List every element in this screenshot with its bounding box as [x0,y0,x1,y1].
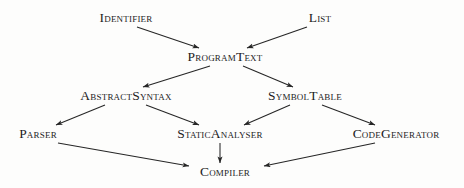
edge-abstractsyntax-to-staticanalyser [146,105,199,125]
edge-symboltable-to-codegenerator [322,105,375,125]
dependency-diagram: IdentifierListProgramTextAbstractSyntaxS… [0,0,464,188]
edge-abstractsyntax-to-parser [56,105,105,125]
node-abstractsyntax[interactable]: AbstractSyntax [80,89,171,103]
node-identifier[interactable]: Identifier [100,11,153,25]
edge-symboltable-to-staticanalyser [244,105,290,125]
node-programtext[interactable]: ProgramText [188,50,263,64]
node-symboltable[interactable]: SymbolTable [268,89,342,103]
node-codegenerator[interactable]: CodeGenerator [353,127,440,141]
node-compiler[interactable]: Compiler [200,165,250,179]
edge-identifier-to-programtext [137,27,199,48]
edge-programtext-to-abstractsyntax [143,66,210,87]
node-list[interactable]: List [309,11,332,25]
edge-programtext-to-symboltable [243,66,293,87]
edge-layer [0,0,464,188]
node-parser[interactable]: Parser [19,127,57,141]
node-staticanalyser[interactable]: StaticAnalyser [177,127,262,141]
edge-codegenerator-to-compiler [264,143,375,166]
edge-parser-to-compiler [58,143,189,166]
edge-list-to-programtext [247,27,307,48]
